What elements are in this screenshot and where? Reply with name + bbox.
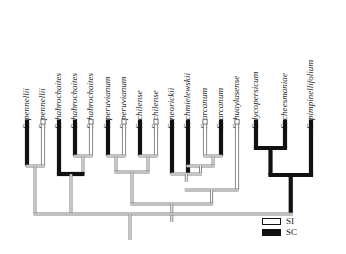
tip-state-marker-sc xyxy=(309,120,313,125)
tip-state-marker-si xyxy=(203,120,207,125)
tip-state-marker-si xyxy=(235,120,239,125)
legend-label-si: SI xyxy=(286,217,294,226)
tip-state-marker-sc xyxy=(283,120,287,125)
tip-state-marker-sc xyxy=(170,120,174,125)
legend-label-sc: SC xyxy=(286,228,297,237)
legend-swatch-si-icon xyxy=(262,218,281,225)
tip-state-marker-sc xyxy=(254,120,258,125)
tip-state-marker-sc xyxy=(106,120,110,125)
tip-state-marker-si xyxy=(122,120,126,125)
tip-state-marker-sc xyxy=(25,120,29,125)
legend-row-si: SI xyxy=(262,216,322,227)
tip-state-marker-sc xyxy=(138,120,142,125)
tip-state-marker-sc xyxy=(219,120,223,125)
tip-state-marker-si xyxy=(154,120,158,125)
legend-swatch-sc-icon xyxy=(262,229,281,236)
tip-state-marker-sc xyxy=(57,120,61,125)
legend-row-sc: SC xyxy=(262,227,322,238)
tip-state-marker-si xyxy=(41,120,45,125)
phylogenetic-tree-figure: S. pennelliiS. pennelliiS. habrochaitesS… xyxy=(0,0,346,254)
tip-state-marker-sc xyxy=(186,120,190,125)
tip-state-marker-si xyxy=(89,120,93,125)
tip-state-marker-sc xyxy=(73,120,77,125)
legend: SI SC xyxy=(262,216,322,238)
